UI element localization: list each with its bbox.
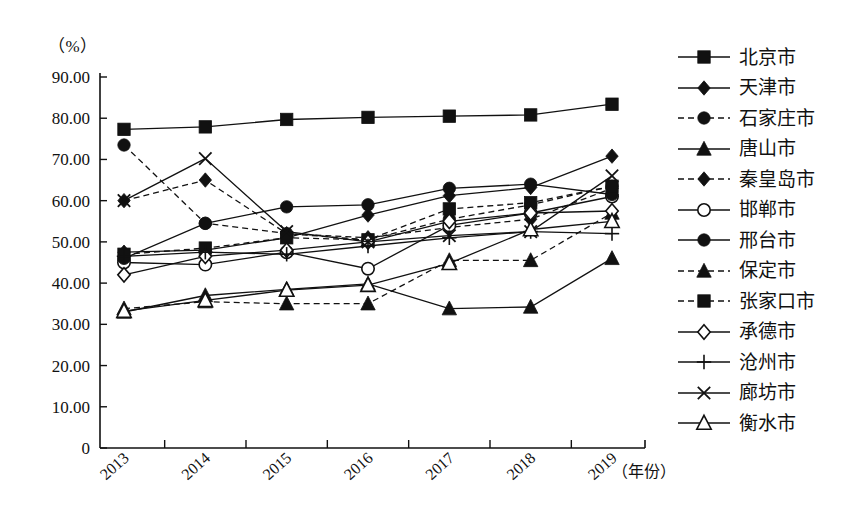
data-point-marker (279, 296, 293, 310)
y-tick-label: 30.00 (52, 315, 90, 334)
legend-item[interactable]: 保定市 (676, 256, 854, 287)
data-point-marker (118, 268, 130, 282)
data-point-marker (118, 139, 130, 151)
legend-item-label: 保定市 (739, 261, 796, 280)
legend-marker-triangle-open-icon (676, 413, 732, 433)
legend-marker (698, 295, 710, 307)
data-point-marker (606, 98, 618, 110)
data-point-marker (280, 113, 292, 125)
x-tick-label-group: 2016 (341, 449, 376, 483)
data-point-marker (199, 121, 211, 133)
series-layer (117, 98, 619, 318)
data-point-marker (523, 299, 537, 313)
legend-item-label: 唐山市 (739, 139, 796, 158)
legend-item[interactable]: 石家庄市 (676, 103, 854, 134)
x-tick-label: 2017 (422, 449, 457, 483)
legend-item-label: 石家庄市 (739, 109, 815, 128)
legend-marker-diamond-filled-icon (676, 78, 732, 98)
x-tick-label: 2018 (503, 449, 538, 483)
data-point-marker (606, 180, 618, 192)
legend-item-label: 北京市 (739, 48, 796, 67)
legend-item-label: 天津市 (739, 78, 796, 97)
legend-marker-diamond-filled-icon (676, 169, 732, 189)
data-point-marker (199, 173, 211, 187)
legend-marker-circle-open-icon (676, 200, 732, 220)
chart-legend: 北京市天津市石家庄市唐山市秦皇岛市邯郸市邢台市保定市张家口市承德市沧州市廊坊市衡… (676, 42, 854, 439)
x-tick-label-group: 2017 (422, 449, 457, 483)
legend-item-label: 衡水市 (739, 414, 796, 433)
legend-item[interactable]: 沧州市 (676, 347, 854, 378)
x-tick-label-group: 2013 (97, 449, 132, 483)
data-point-marker (605, 251, 619, 265)
legend-marker (698, 172, 710, 186)
legend-item[interactable]: 北京市 (676, 42, 854, 73)
legend-item[interactable]: 廊坊市 (676, 378, 854, 409)
y-tick-label: 80.00 (52, 109, 90, 128)
data-point-marker (199, 217, 211, 229)
y-tick-label: 90.00 (52, 68, 90, 87)
legend-item-label: 秦皇岛市 (739, 170, 815, 189)
legend-marker-triangle-filled-icon (676, 139, 732, 159)
y-tick-label: 20.00 (52, 357, 90, 376)
data-series (118, 98, 618, 136)
data-point-marker (362, 262, 374, 274)
y-tick-label: 50.00 (52, 233, 90, 252)
data-point-marker (524, 109, 536, 121)
legend-marker (698, 51, 710, 63)
x-axis-title: （年份） (612, 458, 676, 482)
y-tick-label: 70.00 (52, 150, 90, 169)
line-chart: 90.0080.0070.0060.0050.0040.0030.0020.00… (0, 0, 660, 518)
legend-item[interactable]: 张家口市 (676, 286, 854, 317)
legend-marker-triangle-filled-icon (676, 261, 732, 281)
legend-item[interactable]: 天津市 (676, 73, 854, 104)
data-point-marker (606, 149, 618, 163)
y-tick-label: 40.00 (52, 274, 90, 293)
x-tick-label-group: 2014 (178, 449, 213, 483)
y-tick-label: 10.00 (52, 398, 90, 417)
legend-item-label: 邯郸市 (739, 200, 796, 219)
x-tick-label-group: 2018 (503, 449, 538, 483)
legend-marker (698, 325, 710, 339)
legend-item[interactable]: 邢台市 (676, 225, 854, 256)
legend-marker-diamond-open-icon (676, 322, 732, 342)
axes: 90.0080.0070.0060.0050.0040.0030.0020.00… (52, 68, 645, 483)
data-point-marker (361, 296, 375, 310)
legend-item[interactable]: 承德市 (676, 317, 854, 348)
legend-item-label: 廊坊市 (739, 383, 796, 402)
plot-area: 90.0080.0070.0060.0050.0040.0030.0020.00… (0, 0, 660, 518)
legend-marker-circle-filled-icon (676, 108, 732, 128)
chart-page: （%） 90.0080.0070.0060.0050.0040.0030.002… (0, 0, 857, 518)
y-tick-label: 60.00 (52, 192, 90, 211)
y-tick-label: 0 (82, 439, 91, 458)
legend-marker (698, 234, 710, 246)
legend-marker (698, 112, 710, 124)
x-tick-label: 2015 (259, 449, 294, 483)
legend-marker-cross-icon (676, 383, 732, 403)
x-tick-label: 2014 (178, 449, 213, 483)
legend-item[interactable]: 唐山市 (676, 134, 854, 165)
data-point-marker (524, 178, 536, 190)
data-point-marker (442, 301, 456, 315)
legend-marker (698, 81, 710, 95)
legend-item[interactable]: 衡水市 (676, 408, 854, 439)
legend-marker-circle-filled-icon (676, 230, 732, 250)
legend-item-label: 邢台市 (739, 231, 796, 250)
data-point-marker (523, 253, 537, 267)
legend-marker-square-filled-icon (676, 47, 732, 67)
legend-item-label: 承德市 (739, 322, 796, 341)
data-point-marker (362, 111, 374, 123)
data-point-marker (443, 110, 455, 122)
legend-item[interactable]: 邯郸市 (676, 195, 854, 226)
data-point-marker (118, 123, 130, 135)
legend-item[interactable]: 秦皇岛市 (676, 164, 854, 195)
x-tick-label-group: 2015 (259, 449, 294, 483)
data-point-marker (280, 201, 292, 213)
legend-marker (698, 204, 710, 216)
data-point-marker (443, 182, 455, 194)
legend-marker-plus-icon (676, 352, 732, 372)
x-tick-label: 2016 (341, 449, 376, 483)
legend-marker-square-filled-icon (676, 291, 732, 311)
legend-item-label: 张家口市 (739, 292, 815, 311)
x-tick-label: 2013 (97, 449, 132, 483)
data-point-marker (362, 199, 374, 211)
